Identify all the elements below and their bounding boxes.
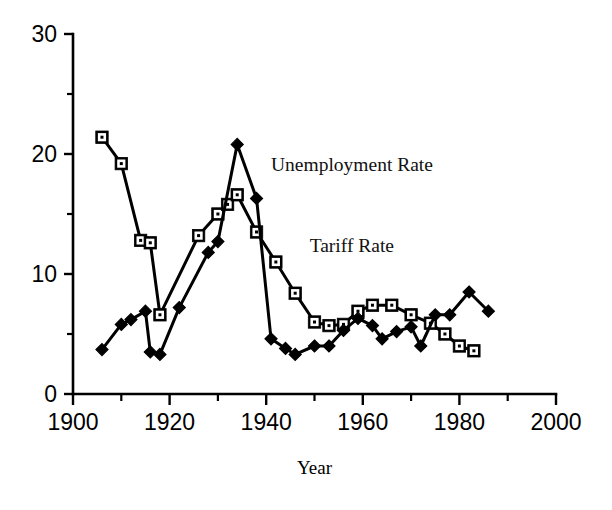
- series-annotation-2: Unemployment Rate: [271, 154, 433, 175]
- chart-figure: 0102030190019201940196019802000 Tariff R…: [0, 0, 612, 510]
- y-tick-label: 30: [31, 21, 57, 47]
- y-tick-label: 10: [31, 261, 57, 287]
- data-point-marker: [231, 138, 243, 150]
- data-point-marker-dot: [458, 345, 461, 348]
- data-point-marker-dot: [313, 321, 316, 324]
- x-tick-label: 1980: [434, 409, 485, 435]
- data-point-marker: [415, 340, 427, 352]
- data-point-marker: [144, 346, 156, 358]
- x-tick-label: 1960: [337, 409, 388, 435]
- y-tick-label: 20: [31, 141, 57, 167]
- data-point-marker-dot: [139, 239, 142, 242]
- x-tick-label: 2000: [530, 409, 581, 435]
- series-line: [102, 144, 488, 354]
- data-point-marker-dot: [274, 261, 277, 264]
- data-point-marker-dot: [410, 313, 413, 316]
- data-point-marker-dot: [236, 193, 239, 196]
- data-point-marker-dot: [472, 349, 475, 352]
- x-axis-title: Year: [297, 457, 333, 478]
- data-point-marker-dot: [327, 324, 330, 327]
- data-point-marker-dot: [197, 234, 200, 237]
- data-point-marker-dot: [100, 136, 103, 139]
- x-tick-label: 1900: [47, 409, 98, 435]
- data-point-marker-dot: [158, 313, 161, 316]
- x-tick-label: 1940: [241, 409, 292, 435]
- data-point-marker: [139, 305, 151, 317]
- data-point-marker: [309, 340, 321, 352]
- data-point-marker: [391, 326, 403, 338]
- data-point-marker-dot: [443, 333, 446, 336]
- data-point-marker: [251, 192, 263, 204]
- data-point-marker-dot: [371, 304, 374, 307]
- x-tick-label: 1920: [144, 409, 195, 435]
- series-annotation-1: Tariff Rate: [310, 235, 394, 256]
- data-point-marker-dot: [390, 304, 393, 307]
- data-point-marker: [173, 302, 185, 314]
- data-point-marker: [405, 321, 417, 333]
- y-tick-label: 0: [44, 381, 57, 407]
- axes: 0102030190019201940196019802000: [31, 21, 581, 435]
- chart-canvas: 0102030190019201940196019802000 Tariff R…: [0, 0, 612, 510]
- data-point-marker-dot: [255, 231, 258, 234]
- data-point-marker-dot: [216, 213, 219, 216]
- data-point-marker: [154, 348, 166, 360]
- data-point-marker-dot: [120, 162, 123, 165]
- data-point-marker-dot: [149, 241, 152, 244]
- data-point-marker-dot: [294, 292, 297, 295]
